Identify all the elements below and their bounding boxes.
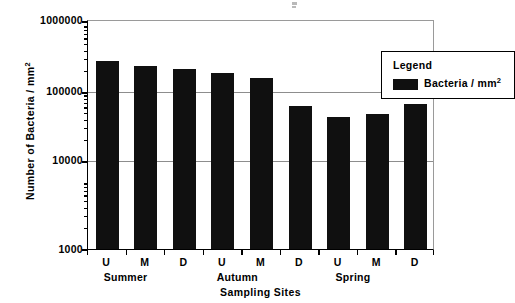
x-axis-tick bbox=[87, 250, 88, 255]
x-axis-group-label: Summer bbox=[86, 271, 166, 283]
x-axis-tick-label: U bbox=[203, 256, 242, 268]
bar bbox=[366, 114, 389, 249]
x-axis-tick-label: U bbox=[87, 256, 126, 268]
x-axis-tick-label: D bbox=[395, 256, 434, 268]
y-axis-minor-tick bbox=[84, 38, 88, 39]
bar bbox=[289, 106, 312, 249]
x-axis-tick-label: M bbox=[241, 256, 280, 268]
x-axis-tick bbox=[164, 250, 165, 255]
plot-area: Legend Bacteria / mm2 bbox=[87, 20, 434, 250]
x-axis-tick-label: D bbox=[280, 256, 319, 268]
y-axis-minor-tick bbox=[84, 107, 88, 108]
y-axis-minor-tick bbox=[84, 195, 88, 196]
y-axis-tick-label: 1000000 bbox=[7, 14, 83, 26]
y-axis-minor-tick bbox=[84, 216, 88, 217]
legend-color-swatch bbox=[393, 79, 418, 90]
x-axis-tick-labels: UMDUMDUMD bbox=[87, 256, 434, 272]
bar bbox=[173, 69, 196, 249]
x-axis-group-labels: SummerAutumnSpring bbox=[0, 271, 447, 287]
x-axis-tick-label: M bbox=[126, 256, 165, 268]
y-axis-tick-label: 10000 bbox=[7, 154, 83, 166]
y-axis-minor-tick bbox=[84, 128, 88, 129]
x-axis-tick-label: U bbox=[318, 256, 357, 268]
x-axis-group-label: Autumn bbox=[197, 271, 277, 283]
y-axis-minor-tick bbox=[84, 187, 88, 188]
y-axis-minor-tick bbox=[84, 103, 88, 104]
y-axis-minor-tick bbox=[84, 51, 88, 52]
y-axis-minor-tick bbox=[84, 228, 88, 229]
y-axis-tick-label: 1000 bbox=[7, 243, 83, 255]
x-axis-tick bbox=[241, 250, 242, 255]
x-axis-tick bbox=[126, 250, 127, 255]
bar bbox=[250, 78, 273, 249]
x-axis-tick-label: D bbox=[164, 256, 203, 268]
y-axis-minor-tick bbox=[84, 208, 88, 209]
y-axis-minor-tick bbox=[84, 140, 88, 141]
y-axis-minor-tick bbox=[84, 71, 88, 72]
x-axis-tick bbox=[433, 250, 434, 255]
legend-entry-label: Bacteria / mm2 bbox=[424, 77, 501, 89]
x-axis-title: Sampling Sites bbox=[87, 286, 434, 298]
y-axis-minor-tick bbox=[84, 120, 88, 121]
bar bbox=[96, 61, 119, 249]
scan-artifact bbox=[292, 2, 297, 5]
y-axis-major-tick bbox=[82, 21, 88, 23]
x-axis-group-label: Spring bbox=[313, 271, 393, 283]
legend-entry-label-superscript: 2 bbox=[497, 76, 501, 85]
bar bbox=[211, 73, 234, 249]
y-axis-tick-label: 100000 bbox=[7, 85, 83, 97]
y-axis-major-tick bbox=[82, 92, 88, 94]
bar bbox=[327, 117, 350, 249]
y-axis-minor-tick bbox=[84, 44, 88, 45]
legend-entry-label-text: Bacteria / mm bbox=[424, 77, 497, 89]
y-axis-minor-tick bbox=[84, 201, 88, 202]
scan-artifact bbox=[292, 6, 296, 8]
y-axis-minor-tick bbox=[84, 34, 88, 35]
y-axis-minor-tick bbox=[84, 59, 88, 60]
bar bbox=[404, 104, 427, 249]
y-axis-minor-tick bbox=[84, 26, 88, 27]
y-axis-minor-tick bbox=[84, 183, 88, 184]
x-axis-tick bbox=[318, 250, 319, 255]
y-axis-minor-tick bbox=[84, 113, 88, 114]
x-axis-tick bbox=[357, 250, 358, 255]
x-axis-tick bbox=[280, 250, 281, 255]
legend-title: Legend bbox=[393, 59, 432, 71]
y-axis-tick-labels: 1000000 100000 10000 1000 bbox=[0, 0, 83, 303]
y-axis-minor-tick bbox=[84, 99, 88, 100]
y-axis-minor-tick bbox=[84, 191, 88, 192]
y-axis-minor-tick bbox=[84, 95, 88, 96]
y-axis-major-tick bbox=[82, 161, 88, 163]
x-axis-tick-label: M bbox=[357, 256, 396, 268]
y-axis-minor-tick bbox=[84, 30, 88, 31]
bar bbox=[134, 66, 157, 249]
x-axis-tick bbox=[395, 250, 396, 255]
legend: Legend Bacteria / mm2 bbox=[381, 51, 515, 99]
x-axis-tick bbox=[203, 250, 204, 255]
